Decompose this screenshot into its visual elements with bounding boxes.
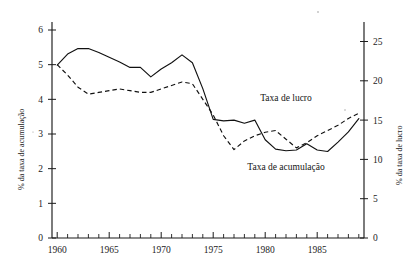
series-annotations-layer: Taxa de lucroTaxa de acumulação <box>247 93 325 172</box>
axis-titles-layer: % da taxa de acumulação % da taxa de luc… <box>17 109 404 190</box>
y2-axis-tick-label: 10 <box>373 155 383 165</box>
y2-axis-tick-label: 5 <box>373 194 378 204</box>
series-annotation-1: Taxa de lucro <box>260 93 312 103</box>
y-axis-tick-label: 4 <box>38 95 43 105</box>
right-axis-title: % da taxa de lucro <box>395 125 404 185</box>
left-axis-title: % da taxa de acumulação <box>17 109 26 190</box>
y2-axis-tick-label: 0 <box>373 233 378 243</box>
series-line-1 <box>57 49 359 152</box>
series-layer <box>57 49 359 152</box>
y2-axis-tick-label: 15 <box>373 116 383 126</box>
chart-container: 0123456051015202519601965197019751980198… <box>0 0 416 276</box>
y-axis-tick-label: 6 <box>38 25 43 35</box>
x-axis-tick-label: 1960 <box>48 245 67 255</box>
y-axis-tick-label: 3 <box>38 129 43 139</box>
x-axis-tick-label: 1975 <box>204 245 223 255</box>
y2-axis-tick-label: 25 <box>373 37 383 47</box>
y-axis-tick-label: 0 <box>38 233 43 243</box>
x-axis-tick-label: 1985 <box>308 245 327 255</box>
y-axis-tick-label: 1 <box>38 199 43 209</box>
series-line-2 <box>57 65 359 150</box>
x-axis-tick-label: 1970 <box>152 245 171 255</box>
tick-labels-layer: 0123456051015202519601965197019751980198… <box>38 25 383 255</box>
y2-axis-tick-label: 20 <box>373 76 383 86</box>
axes-layer <box>52 22 364 238</box>
x-axis-tick-label: 1965 <box>100 245 119 255</box>
x-axis-tick-label: 1980 <box>256 245 275 255</box>
y-axis-tick-label: 5 <box>38 60 43 70</box>
scan-specks <box>32 11 381 159</box>
line-chart: 0123456051015202519601965197019751980198… <box>0 0 416 276</box>
ticks-layer <box>48 30 368 238</box>
y-axis-tick-label: 2 <box>38 164 43 174</box>
series-annotation-2: Taxa de acumulação <box>247 162 325 172</box>
